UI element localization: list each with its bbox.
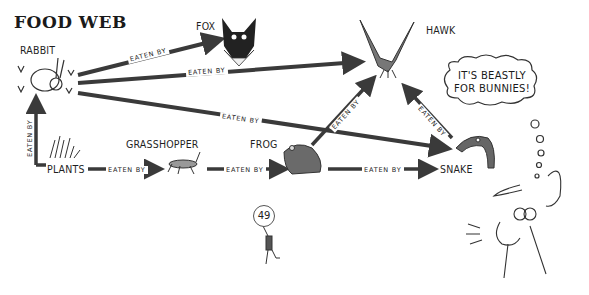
label-snake: SNAKE — [440, 163, 473, 175]
label-rabbit: RABBIT — [20, 44, 55, 56]
thought-bubble-line-1: IT'S BEASTLY — [447, 69, 537, 82]
relation-label-plants-grasshopper: EATEN BY — [106, 166, 148, 174]
page-mascot-illustration — [263, 226, 280, 264]
label-hawk: HAWK — [426, 24, 455, 36]
thought-bubble-text: IT'S BEASTLY FOR BUNNIES! — [447, 69, 537, 95]
hawk-illustration — [360, 20, 414, 78]
label-grasshopper: GRASSHOPPER — [126, 138, 199, 150]
grasshopper-illustration — [168, 152, 200, 174]
relation-label-frog-snake: EATEN BY — [362, 166, 404, 174]
scared-bunny-illustration — [466, 171, 561, 278]
label-plants: PLANTS — [46, 163, 86, 175]
plants-illustration — [50, 136, 80, 158]
label-frog: FROG — [250, 138, 278, 150]
relation-label-plants-rabbit: EATEN BY — [26, 117, 34, 159]
label-fox: FOX — [196, 20, 215, 32]
relation-label-grasshopper-frog: EATEN BY — [224, 166, 266, 174]
thought-bubble-line-2: FOR BUNNIES! — [447, 82, 537, 95]
page-number-badge: 49 — [253, 205, 275, 227]
rabbit-illustration — [18, 58, 74, 93]
arrows-layer — [0, 0, 589, 295]
fox-illustration — [222, 18, 256, 66]
frog-illustration — [284, 145, 321, 174]
